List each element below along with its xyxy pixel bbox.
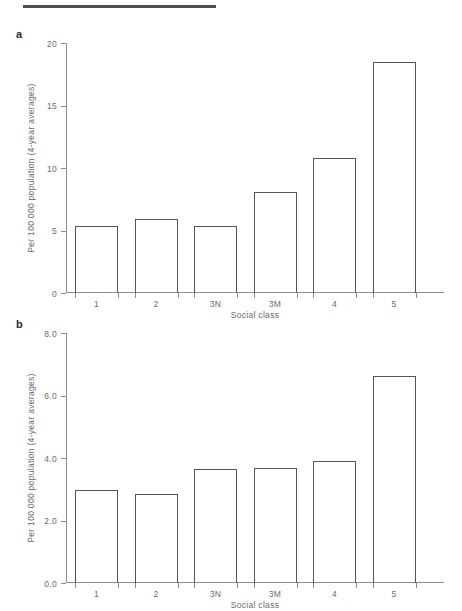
- x-tick-label-b-5: 5: [391, 589, 396, 599]
- panel-label-b: b: [16, 318, 23, 330]
- y-tick-label-b-3: 6.0: [44, 391, 57, 401]
- x-tick-b-1-1: [178, 583, 179, 588]
- y-tick-label-b-4: 8.0: [44, 329, 57, 339]
- y-tick-a-1: 5: [61, 231, 66, 232]
- x-tick-a-4-0: [313, 293, 314, 298]
- x-tick-label-a-2: 2: [153, 299, 158, 309]
- x-tick-label-b-1: 1: [94, 589, 99, 599]
- bar-a-3N: [194, 226, 237, 293]
- x-tick-label-b-3M: 3M: [269, 589, 281, 599]
- bar-a-3M: [254, 192, 297, 293]
- x-tick-b-1-0: [135, 583, 136, 588]
- x-tick-b-3-0: [254, 583, 255, 588]
- x-tick-a-2-1: [237, 293, 238, 298]
- x-tick-a-0-0: [75, 293, 76, 298]
- x-tick-b-2-0: [194, 583, 195, 588]
- y-tick-label-b-1: 2.0: [44, 516, 57, 526]
- y-tick-label-a-4: 20: [47, 39, 57, 49]
- y-tick-a-0: 0: [61, 293, 66, 294]
- x-tick-a-5-1: [416, 293, 417, 298]
- y-tick-b-0: 0.0: [61, 583, 66, 584]
- x-tick-label-a-3N: 3N: [210, 299, 221, 309]
- x-tick-label-a-1: 1: [94, 299, 99, 309]
- bar-a-4: [313, 158, 356, 293]
- x-axis-title-b: Social class: [66, 600, 444, 610]
- x-tick-a-2-0: [194, 293, 195, 298]
- y-tick-a-3: 15: [61, 106, 66, 107]
- x-tick-a-3-0: [254, 293, 255, 298]
- x-tick-label-b-3N: 3N: [210, 589, 221, 599]
- y-tick-a-2: 10: [61, 168, 66, 169]
- y-tick-b-4: 8.0: [61, 333, 66, 334]
- x-tick-b-0-0: [75, 583, 76, 588]
- x-tick-label-b-4: 4: [332, 589, 337, 599]
- y-tick-b-2: 4.0: [61, 458, 66, 459]
- y-tick-b-1: 2.0: [61, 521, 66, 522]
- x-tick-a-4-1: [356, 293, 357, 298]
- bar-a-1: [75, 226, 118, 294]
- x-tick-label-a-5: 5: [391, 299, 396, 309]
- y-axis-line-b: [66, 333, 67, 583]
- x-tick-a-1-0: [135, 293, 136, 298]
- chart-panel-b: b Per 100 000 population (4-year average…: [0, 316, 462, 611]
- bar-a-5: [373, 62, 416, 293]
- x-tick-b-4-1: [356, 583, 357, 588]
- y-tick-label-b-0: 0.0: [44, 579, 57, 589]
- x-tick-b-2-1: [237, 583, 238, 588]
- bar-b-4: [313, 461, 356, 583]
- plot-area-a: 05101520123N3M45: [66, 43, 444, 293]
- bar-b-1: [75, 490, 118, 583]
- x-tick-label-b-2: 2: [153, 589, 158, 599]
- x-tick-b-0-1: [118, 583, 119, 588]
- y-tick-label-a-3: 15: [47, 101, 57, 111]
- plot-area-b: 0.02.04.06.08.0123N3M45: [66, 333, 444, 583]
- x-tick-b-3-1: [297, 583, 298, 588]
- bar-b-3M: [254, 468, 297, 583]
- y-axis-title-a-text: Per 100 000 population (4-year averages): [26, 83, 36, 252]
- panel-label-a: a: [16, 28, 22, 40]
- x-tick-b-5-0: [373, 583, 374, 588]
- bar-b-3N: [194, 469, 237, 583]
- y-tick-label-a-1: 5: [52, 226, 57, 236]
- x-tick-a-1-1: [178, 293, 179, 298]
- y-axis-title-b-text: Per 100 000 population (4-year averages): [26, 373, 36, 542]
- x-tick-a-0-1: [118, 293, 119, 298]
- top-horizontal-rule: [23, 5, 216, 8]
- bar-b-2: [135, 494, 178, 583]
- x-tick-label-a-3M: 3M: [269, 299, 281, 309]
- figure-page: a Per 100 000 population (4-year average…: [0, 0, 462, 611]
- chart-panel-a: a Per 100 000 population (4-year average…: [0, 26, 462, 316]
- y-tick-label-a-0: 0: [52, 289, 57, 299]
- x-tick-b-4-0: [313, 583, 314, 588]
- x-tick-b-5-1: [416, 583, 417, 588]
- y-axis-title-a: Per 100 000 population (4-year averages): [24, 43, 38, 293]
- y-tick-a-4: 20: [61, 43, 66, 44]
- y-axis-title-b: Per 100 000 population (4-year averages): [24, 333, 38, 583]
- bar-b-5: [373, 376, 416, 583]
- x-tick-a-5-0: [373, 293, 374, 298]
- y-tick-label-a-2: 10: [47, 164, 57, 174]
- y-axis-line-a: [66, 43, 67, 293]
- bar-a-2: [135, 219, 178, 293]
- x-tick-a-3-1: [297, 293, 298, 298]
- x-tick-label-a-4: 4: [332, 299, 337, 309]
- y-tick-label-b-2: 4.0: [44, 454, 57, 464]
- y-tick-b-3: 6.0: [61, 396, 66, 397]
